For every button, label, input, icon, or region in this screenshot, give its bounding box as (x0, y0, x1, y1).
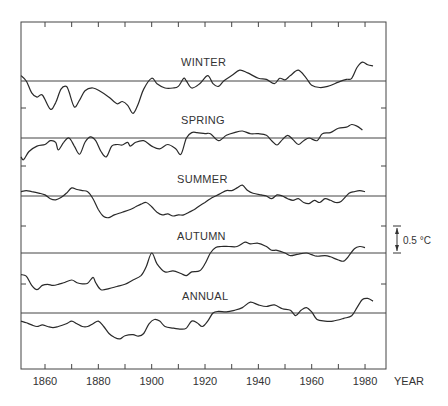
x-tick-label-1960: 1960 (299, 375, 323, 387)
panel-label-autumn: AUTUMN (177, 230, 226, 242)
x-tick-labels: 1860188019001920194019601980 (33, 375, 378, 387)
panel-label-winter: WINTER (181, 56, 226, 68)
panel-label-spring: SPRING (181, 114, 225, 126)
curve-winter (21, 62, 373, 113)
x-tick-label-1880: 1880 (86, 375, 110, 387)
panel-label-summer: SUMMER (177, 173, 228, 185)
curve-annual (21, 298, 373, 339)
x-tick-label-1920: 1920 (193, 375, 217, 387)
arrow-up-icon (395, 228, 399, 234)
scale-bar-0.5c: 0.5 °C (393, 226, 431, 253)
x-tick-label-1940: 1940 (246, 375, 270, 387)
seasonal-temperature-chart: WINTER SPRING SUMMER AUTUMN ANNUAL 18601… (0, 0, 448, 406)
curve-spring (21, 124, 362, 159)
scale-bar-label: 0.5 °C (403, 235, 431, 246)
panel-label-annual: ANNUAL (182, 290, 228, 302)
curve-summer (21, 185, 365, 218)
curve-autumn (21, 242, 365, 290)
x-tick-label-1900: 1900 (139, 375, 163, 387)
x-axis-label: YEAR (394, 375, 424, 387)
x-tick-label-1980: 1980 (353, 375, 377, 387)
x-tick-label-1860: 1860 (33, 375, 57, 387)
arrow-down-icon (395, 245, 399, 251)
